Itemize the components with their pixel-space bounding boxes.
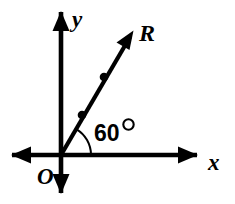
x-axis-right-arrowhead <box>178 147 198 164</box>
y-axis-group <box>53 11 70 194</box>
ray-point-1 <box>78 111 87 120</box>
angle-arc <box>76 129 91 155</box>
y-axis-bottom-arrowhead <box>53 174 70 194</box>
degree-symbol-icon <box>123 119 133 129</box>
y-axis-label: y <box>69 7 83 32</box>
ray-label: R <box>138 20 155 46</box>
origin-label: O <box>37 164 54 189</box>
diagram-canvas: y x O R 60 <box>0 0 235 204</box>
x-axis-left-arrowhead <box>11 147 31 164</box>
angle-diagram: y x O R 60 <box>0 0 235 204</box>
ray-point-2 <box>100 73 109 82</box>
angle-measure-group: 60 <box>94 119 134 146</box>
x-axis-group <box>11 147 198 164</box>
y-axis-top-arrowhead <box>53 11 70 31</box>
angle-value-label: 60 <box>94 120 120 146</box>
ray-arrowhead <box>117 31 134 51</box>
x-axis-label: x <box>207 150 220 175</box>
